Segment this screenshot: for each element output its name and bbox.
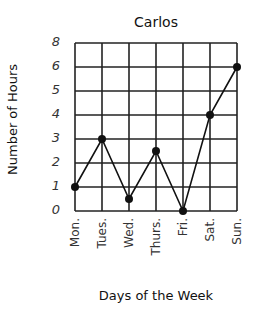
data-point-marker <box>71 183 79 191</box>
data-point-marker <box>152 147 160 155</box>
data-point-marker <box>98 135 106 143</box>
plot-area <box>0 0 257 326</box>
data-point-marker <box>206 111 214 119</box>
data-point-marker <box>179 207 187 215</box>
data-point-marker <box>233 63 241 71</box>
data-point-marker <box>125 195 133 203</box>
